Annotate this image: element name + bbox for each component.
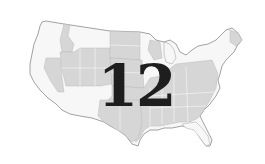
overlay-number: 12 xyxy=(96,58,176,114)
us-map: 12 xyxy=(0,0,265,164)
region-florida xyxy=(182,122,210,146)
